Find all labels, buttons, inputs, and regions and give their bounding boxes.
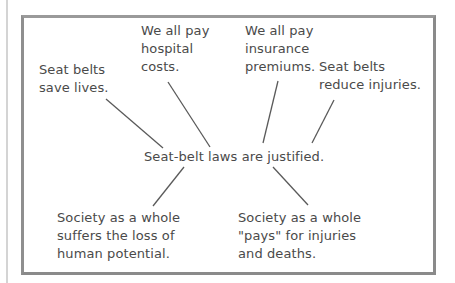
reason-loss-of-potential: Society as a whole suffers the loss of h…	[57, 209, 180, 263]
link-insurance-premiums	[263, 81, 278, 143]
reason-reduce-injuries: Seat belts reduce injuries.	[319, 58, 421, 94]
link-loss-of-potential	[153, 167, 184, 206]
reason-pays-for-injuries: Society as a whole "pays" for injuries a…	[238, 209, 361, 263]
reason-insurance-premiums: We all pay insurance premiums.	[245, 22, 315, 76]
link-save-lives	[106, 99, 163, 148]
main-claim: Seat-belt laws are justified.	[144, 148, 324, 166]
link-pays-for-injuries	[273, 167, 308, 205]
link-hospital-costs	[168, 82, 210, 147]
link-reduce-injuries	[312, 100, 334, 143]
reason-save-lives: Seat belts save lives.	[39, 61, 108, 97]
reason-hospital-costs: We all pay hospital costs.	[141, 22, 209, 76]
